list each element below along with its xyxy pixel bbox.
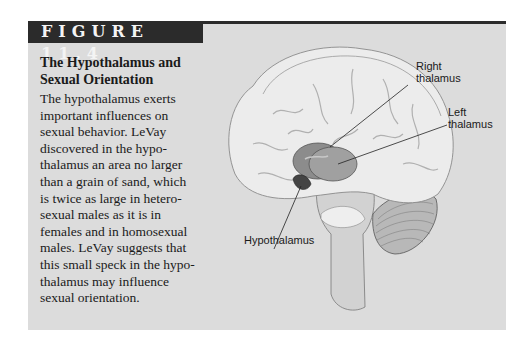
- caption-line: is twice as large in hetero-: [40, 191, 230, 208]
- caption-line: sexual orientation.: [40, 290, 230, 307]
- brain-illustration: Right thalamus Left thalamus Hypothalamu…: [213, 24, 506, 330]
- figure-number-label: FIGURE 11.4: [28, 21, 203, 43]
- caption-line: important influences on: [40, 108, 230, 125]
- caption-line: than a grain of sand, which: [40, 174, 230, 191]
- caption-line: sexual behavior. LeVay: [40, 124, 230, 141]
- caption-line: discovered in the hypo-: [40, 141, 230, 158]
- figure-panel: FIGURE 11.4 The Hypothalamus and Sexual …: [28, 21, 506, 330]
- caption-line: The hypothalamus exerts: [40, 91, 230, 108]
- figure-title: The Hypothalamus and Sexual Orientation: [40, 54, 240, 88]
- title-line: The Hypothalamus and: [40, 54, 240, 71]
- title-line: Sexual Orientation: [40, 71, 240, 88]
- caption-line: males. LeVay suggests that: [40, 240, 230, 257]
- caption-line: this small speck in the hypo-: [40, 257, 230, 274]
- caption-line: thalamus may influence: [40, 274, 230, 291]
- brain-diagram-icon: [213, 24, 506, 330]
- left-thalamus-label: Left thalamus: [448, 106, 493, 130]
- figure-caption: The hypothalamus exerts important influe…: [40, 91, 230, 307]
- caption-line: thalamus an area no larger: [40, 157, 230, 174]
- hypothalamus-label: Hypothalamus: [244, 234, 314, 246]
- caption-line: sexual males as it is in: [40, 207, 230, 224]
- caption-line: females and in homosexual: [40, 224, 230, 241]
- right-thalamus-label: Right thalamus: [416, 60, 461, 84]
